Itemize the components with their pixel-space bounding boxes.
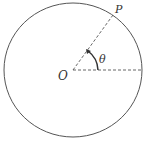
label-o: O — [58, 69, 68, 83]
label-p: P — [114, 3, 123, 16]
circle-diagram: O P θ — [0, 0, 153, 145]
radius-op-dashed — [73, 15, 113, 70]
label-theta: θ — [99, 53, 106, 66]
angle-arc-arrow — [88, 51, 98, 70]
